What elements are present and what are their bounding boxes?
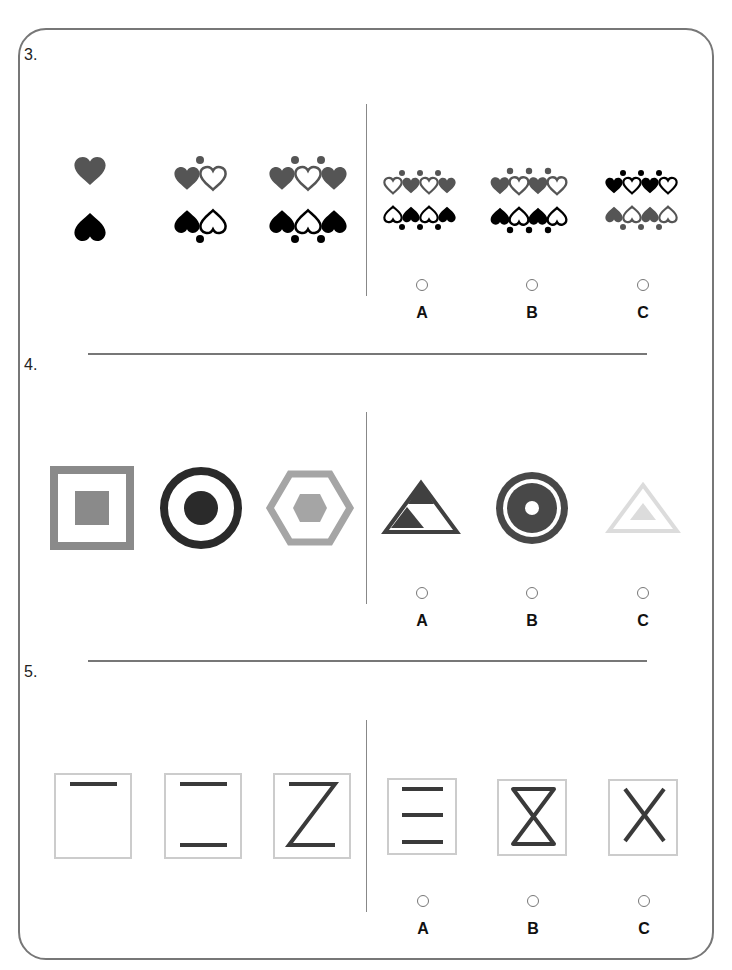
divider-q3 xyxy=(366,104,367,296)
q4-option-b-label: B xyxy=(522,612,542,630)
q5-option-a-radio[interactable] xyxy=(417,895,429,907)
q3-option-b-radio[interactable] xyxy=(526,279,538,291)
q3-option-b-label: B xyxy=(522,304,542,322)
q4-option-c-radio[interactable] xyxy=(637,587,649,599)
separator-q4-q5 xyxy=(88,660,647,662)
q4-option-a-radio[interactable] xyxy=(416,587,428,599)
q5-option-c-label: C xyxy=(634,920,654,938)
q4-option-a-label: A xyxy=(412,612,432,630)
q3-option-a-radio[interactable] xyxy=(416,279,428,291)
q3-option-c-label: C xyxy=(633,304,653,322)
divider-q4 xyxy=(366,412,367,604)
question-number-3: 3. xyxy=(24,46,37,64)
q3-option-a-label: A xyxy=(412,304,432,322)
q4-option-b-radio[interactable] xyxy=(526,587,538,599)
q4-option-c-label: C xyxy=(633,612,653,630)
divider-q5 xyxy=(366,720,367,912)
q3-option-c-radio[interactable] xyxy=(637,279,649,291)
q5-option-c-radio[interactable] xyxy=(638,895,650,907)
q5-option-b-label: B xyxy=(523,920,543,938)
separator-q3-q4 xyxy=(88,353,647,355)
q5-option-a-label: A xyxy=(413,920,433,938)
q5-option-b-radio[interactable] xyxy=(527,895,539,907)
question-number-5: 5. xyxy=(24,663,37,681)
question-number-4: 4. xyxy=(24,356,37,374)
